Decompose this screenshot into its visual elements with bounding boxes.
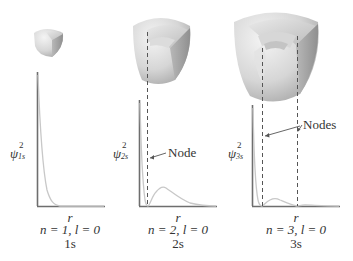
quantum-numbers-3s: n = 3, l = 0 bbox=[266, 223, 326, 236]
quantum-numbers-1s: n = 1, l = 0 bbox=[40, 223, 100, 236]
orbital-name-2s: 2s bbox=[172, 237, 184, 250]
plot-1s bbox=[37, 72, 105, 207]
panel-1s bbox=[34, 29, 105, 207]
quantum-numbers-2s: n = 2, l = 0 bbox=[148, 223, 208, 236]
node-label: Node bbox=[168, 146, 196, 159]
sphere-2s bbox=[133, 18, 190, 84]
node-pointer-1 bbox=[265, 126, 300, 136]
panel-3s bbox=[234, 13, 340, 207]
y-axis-label-3s: ψ 2 3s bbox=[228, 147, 236, 160]
arrow-head-icon bbox=[150, 155, 154, 160]
orbital-name-3s: 3s bbox=[290, 237, 302, 250]
orbital-name-1s: 1s bbox=[64, 237, 76, 250]
arrow-head-icon bbox=[265, 133, 270, 138]
y-axis-label-2s: ψ 2 2s bbox=[113, 147, 121, 160]
density-curve bbox=[38, 75, 104, 206]
y-axis-label-1s: ψ 2 1s bbox=[10, 147, 18, 160]
sphere-1s bbox=[34, 29, 63, 57]
panel-2s bbox=[133, 18, 217, 207]
sphere-3s bbox=[234, 13, 319, 102]
nodes-label: Nodes bbox=[303, 118, 336, 131]
